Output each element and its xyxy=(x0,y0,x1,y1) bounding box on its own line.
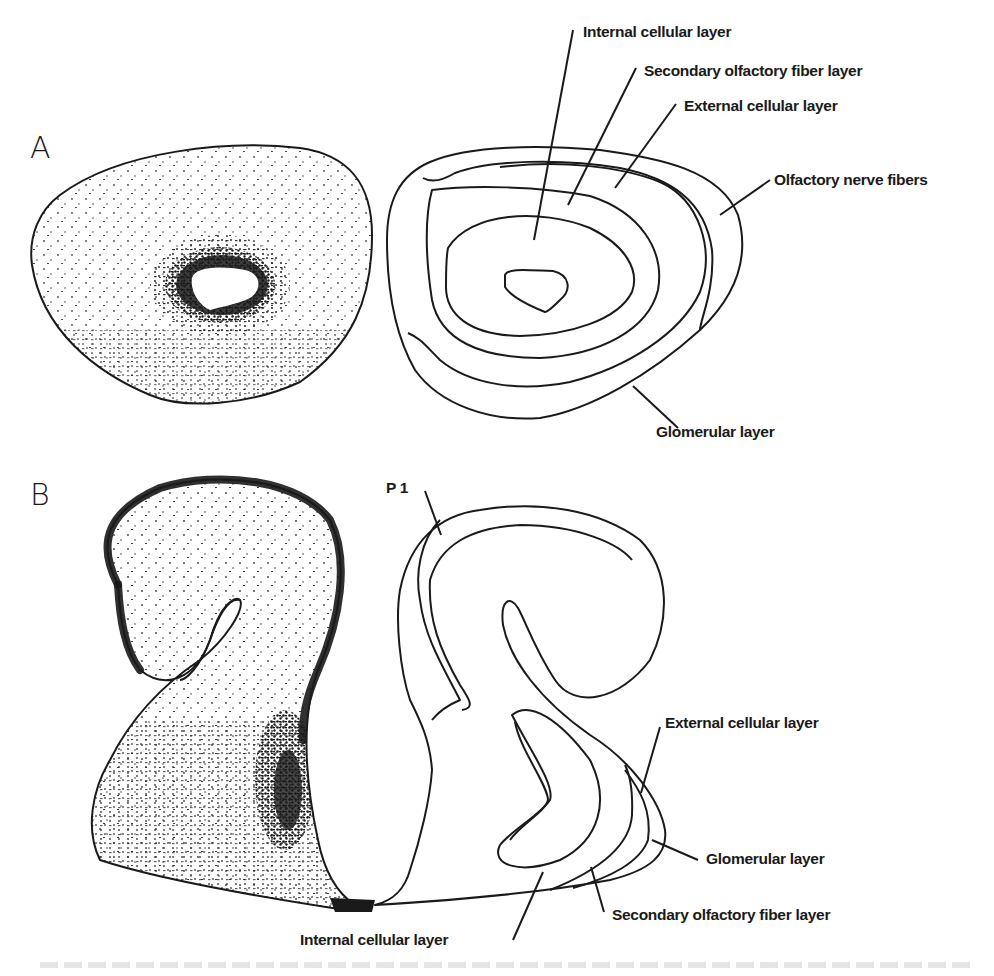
internal-cellular-b xyxy=(510,722,548,840)
glomerular-boundary xyxy=(418,520,460,720)
panel-a-stained-section xyxy=(20,130,390,430)
panel-b-leaders xyxy=(425,491,698,940)
label-a-internal-cellular-layer: Internal cellular layer xyxy=(583,23,731,40)
label-a-glomerular-layer: Glomerular layer xyxy=(656,423,775,440)
label-b-glomerular-layer: Glomerular layer xyxy=(706,850,825,867)
external-cellular-boundary xyxy=(408,164,706,386)
panel-a: A xyxy=(20,23,928,440)
secondary-fiber-boundary xyxy=(427,187,659,358)
panel-letter-a: A xyxy=(30,130,51,165)
panel-b: B xyxy=(30,470,830,948)
external-cellular-b xyxy=(550,765,632,890)
label-a-secondary-olfactory-fiber-layer: Secondary olfactory fiber layer xyxy=(644,62,862,79)
olfactory-bulb-figure: A xyxy=(0,0,994,976)
ventricle-outline xyxy=(505,270,568,312)
panel-b-stained-section xyxy=(80,470,375,920)
label-b-p1: P 1 xyxy=(386,479,409,496)
internal-cellular-boundary xyxy=(446,216,634,336)
cropped-caption xyxy=(40,962,970,968)
panel-b-schematic xyxy=(375,506,665,905)
secondary-fiber-b xyxy=(498,710,600,867)
outer-boundary xyxy=(387,147,742,418)
label-a-olfactory-nerve-fibers: Olfactory nerve fibers xyxy=(774,171,928,188)
panel-a-schematic xyxy=(387,147,742,418)
label-a-external-cellular-layer: External cellular layer xyxy=(684,97,838,114)
label-b-internal-cellular-layer: Internal cellular layer xyxy=(300,931,448,948)
panel-letter-b: B xyxy=(30,477,50,512)
label-b-external-cellular-layer: External cellular layer xyxy=(665,714,819,731)
label-b-secondary-olfactory-fiber-layer: Secondary olfactory fiber layer xyxy=(612,906,830,923)
